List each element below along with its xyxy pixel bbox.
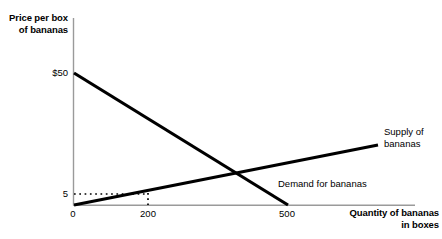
supply-curve-label-line1: Supply of (384, 126, 424, 137)
demand-curve-label: Demand for bananas (278, 178, 388, 190)
supply-demand-chart: Price per boxof bananas Quantity of bana… (0, 0, 442, 239)
chart-plot-area (0, 0, 442, 239)
y-axis-title-line2: of bananas (19, 24, 68, 35)
y-tick-label-5: 5 (32, 188, 68, 200)
x-tick-label-500: 500 (270, 208, 304, 220)
y-axis-title-line1: Price per box (9, 12, 68, 23)
x-tick-label-0: 0 (62, 208, 84, 220)
x-axis-title: Quantity of bananasin boxes (300, 207, 439, 230)
x-tick-label-200: 200 (131, 208, 165, 220)
y-tick-label-50: $50 (32, 67, 68, 79)
supply-curve-label: Supply ofbananas (384, 126, 442, 149)
x-axis-title-line2: in boxes (401, 219, 439, 230)
supply-curve-label-line2: bananas (384, 138, 420, 149)
x-axis-title-line1: Quantity of bananas (350, 207, 439, 218)
y-axis-title: Price per boxof bananas (2, 12, 68, 35)
supply-curve (74, 145, 378, 205)
